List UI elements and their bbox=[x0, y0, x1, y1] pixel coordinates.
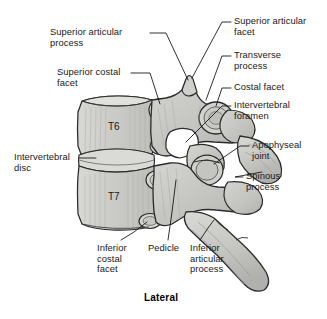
vertebra-label-t7: T7 bbox=[108, 191, 120, 202]
leader-superior-articular-facet bbox=[192, 22, 231, 78]
label-superior-costal-facet: Superior costal facet bbox=[57, 67, 120, 88]
label-transverse-process: Transverse process bbox=[234, 50, 281, 71]
label-spinous-process: Spinous process bbox=[246, 171, 280, 192]
label-costal-facet: Costal facet bbox=[234, 82, 284, 93]
leader-superior-articular-process bbox=[150, 33, 188, 80]
label-superior-articular-process: Superior articular process bbox=[50, 27, 122, 48]
label-intervertebral-disc: Intervertebral disc bbox=[14, 152, 70, 173]
intervertebral-disc-shape bbox=[79, 149, 155, 172]
label-pedicle: Pedicle bbox=[148, 243, 179, 254]
label-intervertebral-foramen: Intervertebral foramen bbox=[234, 100, 290, 121]
label-apophyseal-joint: Apophyseal joint bbox=[252, 140, 302, 161]
figure-caption: Lateral bbox=[144, 292, 178, 303]
anatomy-figure-lateral-thoracic-vertebrae: T6 T7 Superior articular process Superio… bbox=[0, 0, 327, 319]
label-inferior-costal-facet: Inferior costal facet bbox=[97, 243, 127, 275]
label-superior-articular-facet: Superior articular facet bbox=[234, 16, 306, 37]
superior-articular-process-shape bbox=[182, 76, 197, 97]
vertebra-label-t6: T6 bbox=[108, 121, 120, 132]
label-inferior-articular-process: Inferior articular process bbox=[190, 243, 224, 275]
leader-transverse-process bbox=[206, 56, 231, 100]
